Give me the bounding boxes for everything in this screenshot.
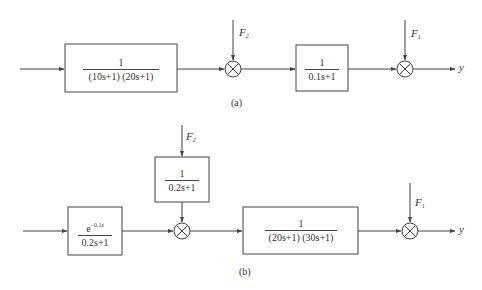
a-f1-label: F1 bbox=[411, 27, 421, 40]
b-delay-numerator: e−0.1s bbox=[84, 220, 106, 235]
b-caption: (b) bbox=[239, 266, 251, 277]
b-f2-filter-denominator: 0.2s+1 bbox=[168, 181, 195, 193]
a-g2-denominator: 0.1s+1 bbox=[308, 70, 335, 82]
a-caption: (a) bbox=[231, 97, 242, 108]
b-process-numerator: 1 bbox=[297, 218, 306, 230]
b-f2-filter-transfer-function: 1 0.2s+1 bbox=[165, 168, 199, 193]
a-g2-numerator: 1 bbox=[318, 57, 327, 69]
b-summing-junction-2 bbox=[402, 223, 418, 239]
a-summing-junction-1 bbox=[225, 61, 241, 77]
b-f1-label: F1 bbox=[415, 196, 425, 209]
b-f2-filter-numerator: 1 bbox=[178, 168, 187, 180]
a-g1-denominator: (10s+1) (20s+1) bbox=[89, 70, 154, 82]
b-summing-junction-1 bbox=[174, 223, 190, 239]
a-g1-transfer-function: 1 (10s+1) (20s+1) bbox=[83, 57, 159, 82]
b-delay-denominator: 0.2s+1 bbox=[81, 236, 108, 248]
b-process-denominator: (20s+1) (30s+1) bbox=[269, 231, 334, 243]
b-f2-label: F2 bbox=[186, 130, 196, 143]
b-process-transfer-function: 1 (20s+1) (30s+1) bbox=[265, 218, 337, 243]
b-output-label: y bbox=[459, 223, 464, 235]
a-output-label: y bbox=[459, 61, 464, 73]
a-summing-junction-2 bbox=[397, 61, 413, 77]
a-g2-transfer-function: 1 0.1s+1 bbox=[305, 57, 339, 82]
b-delay-transfer-function: e−0.1s 0.2s+1 bbox=[78, 220, 112, 248]
a-g1-numerator: 1 bbox=[117, 57, 126, 69]
a-f2-label: F2 bbox=[239, 26, 249, 39]
block-diagram-canvas bbox=[0, 0, 482, 290]
